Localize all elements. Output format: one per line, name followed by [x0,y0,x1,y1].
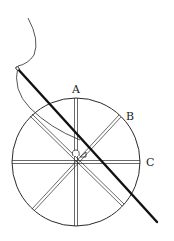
needle [17,68,157,222]
label-b: B [126,110,134,123]
spokes [12,98,140,226]
label-c: C [146,156,154,169]
center-knot [72,150,86,157]
needle-eye-icon [15,66,20,71]
label-a: A [71,83,81,96]
weaving-diagram: A B C [0,0,174,241]
